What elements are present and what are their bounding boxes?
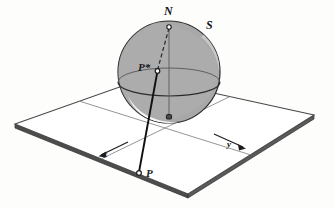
stereographic-projection-figure: N S P* P x y <box>0 0 334 209</box>
p-marker <box>137 171 142 176</box>
p-star-marker <box>155 69 160 74</box>
figure-canvas <box>0 0 334 209</box>
north-pole-marker <box>167 25 171 29</box>
label-north-pole: N <box>164 5 173 17</box>
label-axis-x: x <box>103 150 108 159</box>
south-pole-marker <box>166 115 171 119</box>
label-axis-y: y <box>227 140 231 149</box>
label-point-on-plane: P <box>146 168 153 179</box>
label-point-on-sphere: P* <box>138 62 150 73</box>
label-sphere: S <box>206 19 213 31</box>
